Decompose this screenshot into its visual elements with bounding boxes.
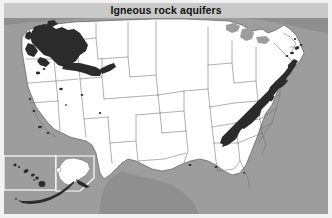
map-figure-frame: Igneous rock aquifers [0, 0, 332, 218]
speck-nevada-2 [65, 104, 67, 106]
map-canvas[interactable]: Igneous rock aquifers [4, 3, 328, 214]
speck-gulf-3 [243, 172, 245, 174]
ne-speck-nh [294, 38, 296, 40]
island-maui [35, 176, 39, 179]
ne-speck-ct [290, 52, 294, 55]
speck-socal-2 [47, 132, 50, 134]
speck-utah [81, 94, 84, 96]
speck-nevada [59, 88, 63, 90]
island-hawaii [39, 181, 46, 187]
hawaii-inset-box [4, 156, 56, 190]
map-svg[interactable] [4, 3, 328, 214]
island-lanai [33, 179, 35, 181]
ne-speck-cape [300, 44, 303, 46]
aleutian-island-4 [43, 200, 45, 201]
ne-speck-ny [286, 55, 289, 57]
hawaii-inset[interactable] [4, 156, 56, 190]
speck-gulf-2 [215, 166, 218, 168]
aleutian-island-2 [23, 201, 25, 202]
aleutian-island-3 [33, 202, 35, 203]
speck-norcal-2 [43, 68, 46, 70]
speck-socal [38, 126, 42, 128]
speck-nm [99, 112, 101, 114]
title-band-bg [4, 3, 328, 18]
speck-gulf-1 [188, 164, 191, 166]
aleutian-island-1 [15, 198, 17, 199]
speck-coastal-ca [29, 98, 31, 100]
speck-norcal [36, 72, 40, 75]
island-niihau [18, 166, 20, 168]
speck-central-ca [33, 110, 36, 112]
